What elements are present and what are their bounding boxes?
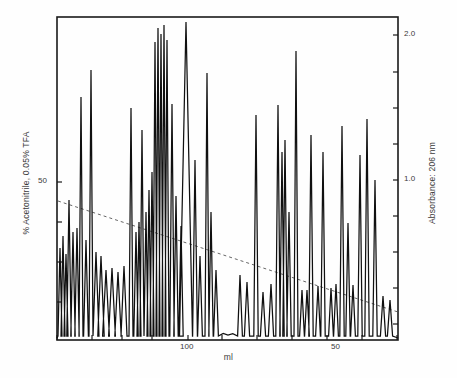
- y-right-tick-label-2-0: 2.0: [404, 29, 415, 38]
- y-left-tick-label-50: 50: [38, 176, 47, 185]
- y-right-tick-label-1-0: 1.0: [404, 174, 415, 183]
- x-tick-label-50: 50: [331, 342, 340, 351]
- chromatogram-figure: % Acetonitrile, 0.05% TFA Absorbance: 20…: [0, 0, 457, 378]
- y-axis-right-title: Absorbance: 206 nm: [427, 113, 437, 253]
- absorbance-trace: [57, 22, 398, 338]
- x-axis-title: ml: [0, 352, 457, 362]
- y-axis-left-title: % Acetonitrile, 0.05% TFA: [21, 113, 31, 253]
- chart-canvas: [0, 0, 457, 378]
- x-tick-label-100: 100: [180, 342, 193, 351]
